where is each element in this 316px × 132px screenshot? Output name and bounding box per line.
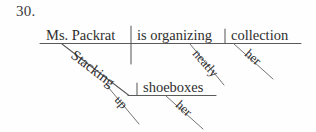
object-possessive-word: her [242, 46, 265, 69]
verb-word: is organizing [137, 27, 212, 43]
participle-object-possessive-word: her [173, 97, 196, 120]
participle-object-word: shoeboxes [143, 79, 204, 95]
participle-word: Stacking [68, 47, 118, 91]
worksheet-page: 30. Ms. Packrat is organizing collection… [0, 0, 316, 132]
adverb-word: neatly [190, 46, 222, 80]
subject-word: Ms. Packrat [46, 27, 115, 43]
direct-object-word: collection [231, 27, 289, 43]
sentence-diagram: Ms. Packrat is organizing collection her… [0, 0, 316, 132]
